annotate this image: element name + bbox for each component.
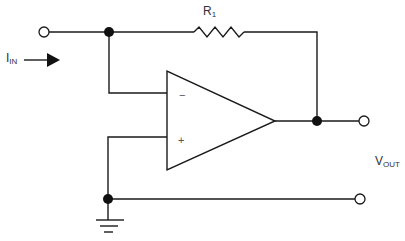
output-voltage-label: VOUT: [375, 154, 400, 169]
input-current-label: IIN: [6, 51, 18, 66]
output-reference-terminal: [355, 194, 365, 204]
feedback-wire-right: [244, 32, 317, 121]
noninverting-input-sign: +: [178, 134, 184, 146]
ground-icon: [96, 199, 124, 232]
op-amp-icon: [167, 71, 275, 170]
ground-junction-node: [103, 194, 113, 204]
output-junction-node: [312, 116, 322, 126]
input-current-arrow-icon: [24, 53, 60, 67]
inverting-input-wire: [109, 32, 167, 93]
inverting-input-sign: −: [179, 89, 185, 101]
resistor-r1-icon: [194, 27, 244, 37]
input-terminal: [39, 27, 49, 37]
output-terminal: [359, 116, 369, 126]
noninverting-input-wire: [108, 137, 167, 199]
resistor-label: R1: [203, 4, 217, 19]
input-junction-node: [104, 27, 114, 37]
transimpedance-amplifier-schematic: − + IIN R1 VOUT: [0, 0, 405, 241]
